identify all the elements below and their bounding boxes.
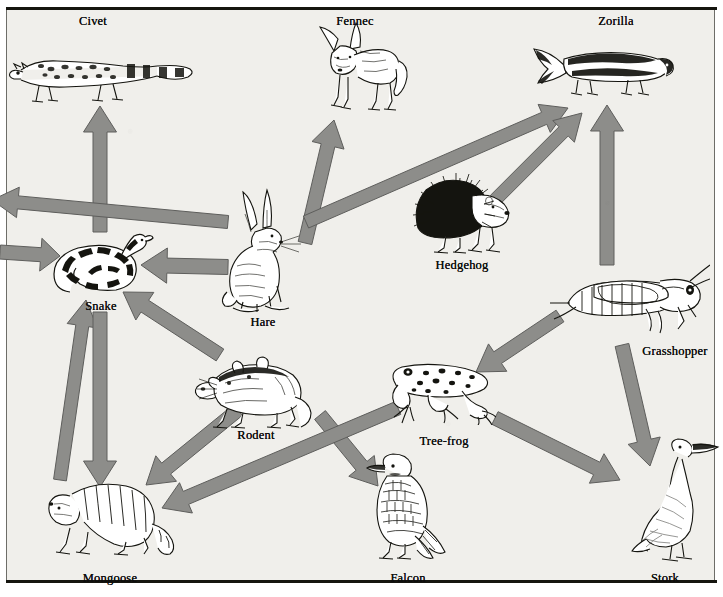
- figure-caption: [0, 585, 723, 597]
- arrow-grasshopper-to-zorilla: [591, 105, 624, 265]
- label-fennec: Fennec: [336, 14, 373, 29]
- arrow-snake-to-civet2: [0, 238, 60, 271]
- label-hedgehog: Hedgehog: [436, 258, 489, 273]
- label-hare: Hare: [250, 315, 275, 330]
- label-zorilla: Zorilla: [598, 14, 633, 29]
- arrow-grasshopper-to-stork: [615, 343, 660, 466]
- arrow-rodent-to-snake: [123, 292, 224, 361]
- arrow-hare-to-civet: [0, 187, 229, 228]
- label-stork: Stork: [651, 571, 679, 586]
- label-falcon: Falcon: [390, 571, 425, 586]
- label-rodent: Rodent: [237, 428, 274, 443]
- food-web-figure: CivetFennecZorillaHedgehogGrasshopperHar…: [0, 0, 723, 597]
- arrow-tree-frog-to-stork: [492, 412, 620, 484]
- label-mongoose: Mongoose: [83, 571, 137, 586]
- arrow-tree-frog-to-mongoose: [162, 402, 401, 513]
- label-grasshopper: Grasshopper: [642, 344, 707, 359]
- label-tree-frog: Tree-frog: [419, 434, 468, 449]
- label-civet: Civet: [79, 14, 107, 29]
- arrow-mongoose-to-snake: [54, 300, 98, 481]
- arrow-grasshopper-to-tree-frog: [476, 310, 564, 372]
- arrow-hare-to-snake: [141, 248, 228, 283]
- label-snake: Snake: [85, 299, 117, 314]
- arrow-snake-to-mongoose: [84, 312, 117, 487]
- arrow-hare-to-fennec: [298, 120, 344, 245]
